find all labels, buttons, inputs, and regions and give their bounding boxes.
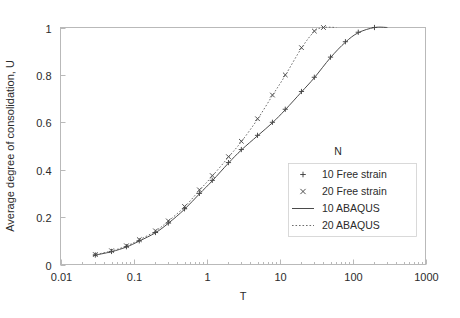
x-tick-label: 0.01	[51, 271, 72, 283]
x-tick-label: 1	[204, 271, 210, 283]
x-tick-label: 10	[274, 271, 286, 283]
y-tick-label: 0	[45, 260, 51, 272]
x-axis-title: T	[240, 290, 247, 302]
y-tick-label: 0.2	[36, 212, 51, 224]
consolidation-chart-figure: 0.010.11101001000 00.20.40.60.81 T Avera…	[0, 0, 460, 318]
y-tick-label: 0.4	[36, 165, 51, 177]
legend-item-label: 20 ABAQUS	[322, 219, 380, 231]
legend-item-label: 20 Free strain	[322, 185, 387, 197]
chart-canvas: 0.010.11101001000 00.20.40.60.81 T Avera…	[0, 0, 460, 318]
legend-title: N	[334, 145, 342, 157]
y-axis-title: Average degree of consolidation, U	[4, 60, 16, 232]
y-tick-label: 0.8	[36, 70, 51, 82]
y-tick-label: 1	[45, 23, 51, 35]
x-tick-label: 100	[344, 271, 362, 283]
y-tick-label: 0.6	[36, 117, 51, 129]
x-tick-label: 0.1	[127, 271, 142, 283]
x-tick-label: 1000	[414, 271, 438, 283]
legend-item-label: 10 ABAQUS	[322, 202, 380, 214]
legend-item-label: 10 Free strain	[322, 168, 387, 180]
